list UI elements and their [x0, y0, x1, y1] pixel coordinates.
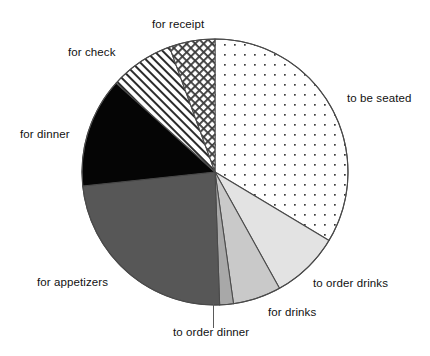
- label-for-drinks: for drinks: [268, 306, 316, 319]
- label-to-order-dinner: to order dinner: [173, 326, 249, 339]
- pie-chart: to be seated to order drinks for drinks …: [0, 0, 430, 356]
- label-for-appetizers: for appetizers: [37, 276, 108, 289]
- pie-chart-canvas: [0, 0, 430, 356]
- label-to-order-drinks: to order drinks: [313, 277, 388, 290]
- pie-slice-group: [82, 39, 348, 305]
- label-for-check: for check: [68, 46, 116, 59]
- label-for-receipt: for receipt: [152, 18, 204, 31]
- label-for-dinner: for dinner: [20, 128, 70, 141]
- leader-line-to-order-dinner: [213, 303, 214, 328]
- label-to-be-seated: to be seated: [347, 92, 412, 105]
